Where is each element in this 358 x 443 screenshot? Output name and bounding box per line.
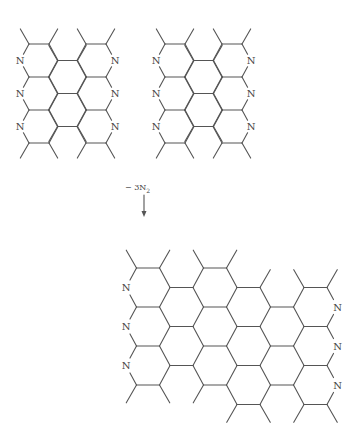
substituent-bond — [106, 29, 115, 44]
nitrogen-atom-label: N — [247, 88, 256, 99]
substituent-bond — [126, 250, 136, 268]
bond — [106, 100, 112, 110]
bond — [294, 385, 305, 405]
bond — [242, 110, 248, 120]
nitrogen-atom-label: N — [111, 88, 120, 99]
reactant-right-molecule: NNNNNN — [152, 29, 256, 158]
bond — [77, 77, 86, 94]
substituent-bond — [242, 29, 251, 44]
bond — [227, 288, 238, 308]
subscript: 2 — [146, 187, 150, 194]
bond — [23, 44, 29, 54]
bond — [106, 133, 112, 143]
bond — [242, 44, 248, 54]
bond — [260, 366, 271, 386]
nitrogen-atom-label: N — [152, 88, 161, 99]
bond — [260, 288, 271, 308]
bond — [227, 346, 238, 366]
substituent-bond — [260, 270, 270, 288]
bond — [23, 110, 29, 120]
substituent-bond — [294, 270, 304, 288]
bond — [227, 327, 238, 347]
bond — [77, 61, 86, 78]
bond — [185, 110, 194, 127]
bond — [77, 110, 86, 127]
bond — [159, 133, 165, 143]
bond — [193, 327, 204, 347]
substituent-bond — [185, 45, 194, 60]
substituent-bond — [193, 385, 203, 403]
substituent-bond — [156, 29, 165, 44]
bond — [213, 94, 222, 111]
bond — [193, 307, 204, 327]
bond — [106, 77, 112, 87]
bond — [159, 110, 165, 120]
bond — [242, 133, 248, 143]
bond — [260, 385, 271, 405]
bond — [227, 307, 238, 327]
nitrogen-atom-label: N — [152, 55, 161, 66]
minus-sign: − — [125, 183, 132, 192]
substituent-bond — [294, 405, 304, 423]
bond — [130, 346, 137, 358]
product-molecule: NNNNNN — [122, 250, 343, 422]
bond — [23, 100, 29, 110]
substituent-bond — [193, 250, 203, 268]
nitrogen-atom-label: N — [152, 121, 161, 132]
bond — [106, 67, 112, 77]
substituent-bond — [160, 385, 170, 403]
bond — [193, 346, 204, 366]
nitrogen-atom-label: N — [247, 121, 256, 132]
down-arrow-icon — [142, 211, 147, 217]
substituent-bond — [49, 143, 58, 158]
bond — [213, 61, 222, 78]
bond — [159, 100, 165, 110]
bond — [294, 346, 305, 366]
substituent-bond — [77, 29, 86, 44]
bond — [327, 288, 334, 300]
bond — [160, 288, 171, 308]
bond — [227, 366, 238, 386]
reaction-condition-label: − 3N2 — [125, 183, 150, 194]
substituent-bond — [106, 143, 115, 158]
substituent-bond — [227, 250, 237, 268]
nitrogen-atom-label: N — [16, 121, 25, 132]
bond — [242, 67, 248, 77]
bond — [160, 327, 171, 347]
nitrogen-atom-label: N — [122, 360, 131, 371]
reactant-left-molecule: NNNNNN — [16, 29, 120, 158]
reaction-diagram: NNNNNN NNNNNN NNNNNN — [0, 0, 358, 443]
bond — [193, 288, 204, 308]
bond — [49, 110, 58, 127]
nitrogen-atom-label: N — [122, 282, 131, 293]
substituent-bond — [185, 127, 194, 142]
bond — [193, 366, 204, 386]
bond — [260, 307, 271, 327]
bond — [130, 295, 137, 307]
substituent-bond — [214, 127, 223, 142]
bond — [213, 110, 222, 127]
substituent-bond — [78, 45, 87, 60]
substituent-bond — [160, 250, 170, 268]
substituent-bond — [20, 29, 29, 44]
bond — [130, 334, 137, 346]
bond — [130, 307, 137, 319]
bond — [185, 94, 194, 111]
bond — [130, 268, 137, 280]
bond — [160, 268, 171, 288]
bond — [327, 314, 334, 326]
substituent-bond — [78, 127, 87, 142]
bond — [160, 366, 171, 386]
bond — [260, 327, 271, 347]
bond — [294, 307, 305, 327]
nitrogen-atom-label: N — [111, 55, 120, 66]
substituent-bond — [327, 405, 337, 423]
bond — [23, 67, 29, 77]
nitrogen-atom-label: N — [247, 55, 256, 66]
substituent-bond — [227, 405, 237, 423]
substituent-bond — [214, 45, 223, 60]
nitrogen-atom-label: N — [111, 121, 120, 132]
substituent-bond — [242, 143, 251, 158]
bond — [185, 61, 194, 78]
bond — [227, 385, 238, 405]
